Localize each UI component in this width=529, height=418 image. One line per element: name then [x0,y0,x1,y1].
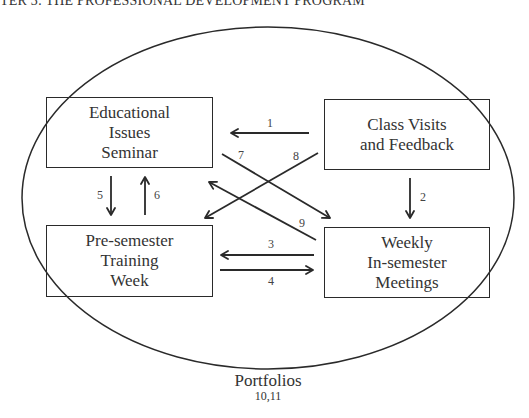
node-label-line: Class Visits [367,115,446,135]
node-label-line: Seminar [101,143,158,163]
diagram-canvas [0,0,529,418]
portfolios-ellipse [22,27,514,369]
edge-label-5: 5 [97,188,103,203]
node-label-line: Pre-semester [86,231,174,251]
node-label-line: Meetings [375,273,438,293]
node-label-line: In-semester [367,253,446,273]
arrow-8 [205,153,318,218]
portfolios-label: Portfolios [234,371,301,391]
arrow-7 [222,154,330,218]
edge-label-9: 9 [299,216,305,231]
portfolios-sublabel: 10,11 [255,389,282,404]
node-label-line: Training [101,251,159,271]
edge-label-3: 3 [268,237,274,252]
node-label-line: Issues [109,123,151,143]
node-class-visits-feedback: Class Visits and Feedback [324,99,490,170]
node-label-line: Weekly [381,233,433,253]
node-pre-semester-training-week: Pre-semester Training Week [46,225,213,297]
node-weekly-in-semester-meetings: Weekly In-semester Meetings [324,227,490,298]
node-label-line: Educational [89,103,170,123]
edge-label-2: 2 [420,190,426,205]
arrow-9 [209,182,316,240]
node-label-line: and Feedback [360,135,454,155]
node-educational-issues-seminar: Educational Issues Seminar [46,97,213,168]
edge-label-4: 4 [268,274,274,289]
node-label-line: Week [110,271,148,291]
edge-label-8: 8 [293,149,299,164]
edge-label-7: 7 [238,148,244,163]
edge-label-6: 6 [154,188,160,203]
edge-label-1: 1 [267,116,273,131]
